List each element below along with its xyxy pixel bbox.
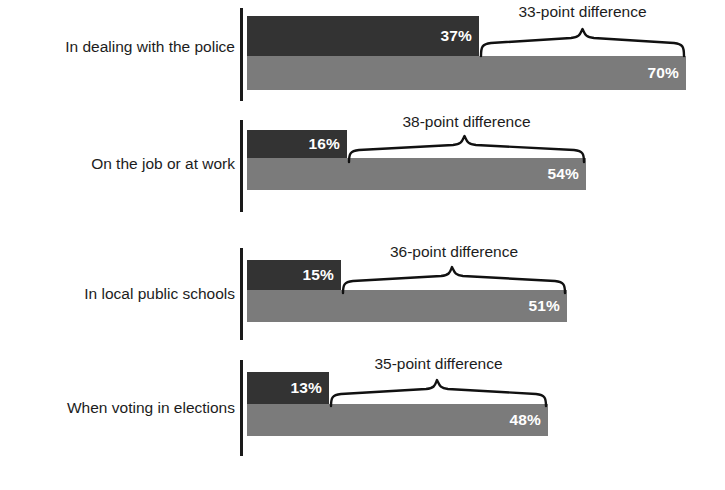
bar-dark: 16% — [247, 130, 347, 158]
difference-annotation: 36-point difference — [341, 244, 567, 292]
brace-icon — [347, 133, 586, 163]
bar-value-dark: 15% — [302, 267, 334, 283]
difference-label: 36-point difference — [341, 244, 567, 260]
bar-light: 70% — [247, 56, 686, 90]
bar-value-dark: 37% — [440, 28, 472, 44]
brace-icon — [329, 377, 548, 407]
bar-value-dark: 13% — [290, 380, 322, 396]
bar-light: 51% — [247, 290, 567, 322]
category-label: In dealing with the police — [0, 38, 235, 56]
axis-line — [240, 248, 243, 340]
category-label: When voting in elections — [0, 399, 235, 417]
chart-group-police: In dealing with the police 37% 70% 33-po… — [0, 0, 725, 110]
difference-label: 38-point difference — [347, 114, 586, 130]
axis-line — [240, 360, 243, 456]
bar-light: 48% — [247, 404, 548, 436]
chart-group-job: On the job or at work 16% 54% 38-point d… — [0, 112, 725, 222]
bar-value-dark: 16% — [308, 136, 340, 152]
difference-annotation: 33-point difference — [479, 4, 686, 56]
difference-label: 33-point difference — [479, 4, 686, 20]
category-label: On the job or at work — [0, 155, 235, 173]
bar-dark: 15% — [247, 260, 341, 290]
bar-value-light: 70% — [647, 65, 679, 81]
bar-dark: 37% — [247, 16, 479, 56]
brace-icon — [479, 25, 686, 57]
brace-icon — [341, 264, 567, 294]
chart-group-voting: When voting in elections 13% 48% 35-poin… — [0, 352, 725, 467]
bar-value-light: 54% — [547, 166, 579, 182]
bar-dark: 13% — [247, 372, 329, 404]
bar-value-light: 48% — [509, 412, 541, 428]
difference-annotation: 38-point difference — [347, 114, 586, 160]
axis-line — [240, 8, 243, 101]
difference-annotation: 35-point difference — [329, 356, 548, 406]
chart-group-schools: In local public schools 15% 51% 36-point… — [0, 240, 725, 350]
difference-label: 35-point difference — [329, 356, 548, 372]
bar-chart: In dealing with the police 37% 70% 33-po… — [0, 0, 725, 490]
bar-value-light: 51% — [528, 298, 560, 314]
axis-line — [240, 120, 243, 212]
category-label: In local public schools — [0, 285, 235, 303]
